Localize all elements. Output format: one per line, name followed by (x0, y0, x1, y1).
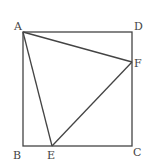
segment-af (23, 32, 132, 62)
geometry-diagram: A D F B E C (0, 0, 148, 166)
label-a: A (13, 20, 23, 33)
label-e: E (47, 149, 55, 162)
label-c: C (133, 146, 141, 159)
segment-ae (23, 32, 52, 146)
square-abcd (23, 32, 132, 146)
segment-ef (52, 62, 132, 146)
label-b: B (13, 149, 21, 162)
label-f: F (134, 57, 142, 70)
label-d: D (134, 20, 143, 33)
